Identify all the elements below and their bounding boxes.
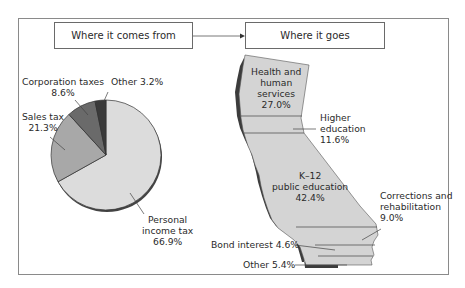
label-sales-tax-name: Sales tax [22, 111, 64, 122]
label-sales-tax-value: 21.3% [22, 122, 64, 133]
label-higher-line2: education [320, 123, 366, 134]
label-health-value: 27.0% [251, 99, 301, 110]
label-health-line3: services [251, 88, 301, 99]
label-corporation-taxes: Corporation taxes 8.6% [22, 76, 104, 98]
label-corrections-line2: rehabilitation [380, 201, 453, 212]
label-health-line1: Health and [251, 66, 301, 77]
label-health-line2: human [251, 77, 301, 88]
label-personal-income-tax-line1: Personal [142, 214, 193, 225]
pie-chart [51, 100, 162, 212]
label-k12-education: K–12 public education 42.4% [272, 170, 348, 203]
label-corporation-taxes-value: 8.6% [22, 87, 104, 98]
label-corrections-value: 9.0% [380, 212, 453, 223]
label-sales-tax: Sales tax 21.3% [22, 111, 64, 133]
label-personal-income-tax-line2: income tax [142, 225, 193, 236]
arrow-icon [193, 34, 245, 39]
label-other-spending: Other 5.4% [243, 259, 295, 270]
label-bond-interest: Bond interest 4.6% [211, 239, 299, 250]
label-other-revenue: Other 3.2% [111, 76, 163, 87]
label-personal-income-tax: Personal income tax 66.9% [142, 214, 193, 247]
label-higher-education: Higher education 11.6% [320, 112, 366, 145]
label-health-human-services: Health and human services 27.0% [251, 66, 301, 110]
label-personal-income-tax-value: 66.9% [142, 236, 193, 247]
label-k12-line1: K–12 [272, 170, 348, 181]
label-k12-line2: public education [272, 181, 348, 192]
label-corrections-line1: Corrections and [380, 190, 453, 201]
label-k12-value: 42.4% [272, 192, 348, 203]
label-corporation-taxes-name: Corporation taxes [22, 76, 104, 87]
label-corrections: Corrections and rehabilitation 9.0% [380, 190, 453, 223]
label-higher-value: 11.6% [320, 134, 366, 145]
label-higher-line1: Higher [320, 112, 366, 123]
